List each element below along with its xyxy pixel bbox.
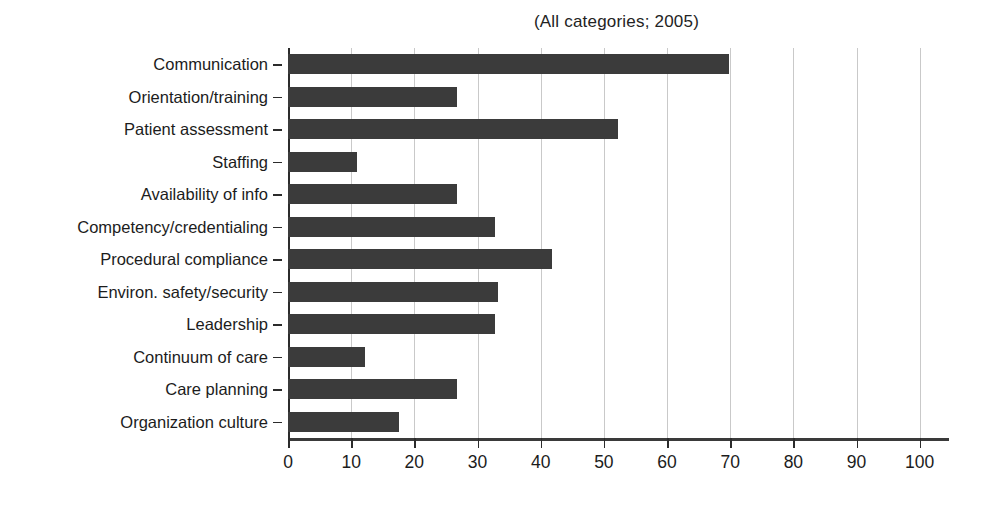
x-axis-tick-60 xyxy=(667,438,669,448)
y-axis-tick xyxy=(273,357,282,359)
bar xyxy=(288,217,495,237)
x-axis-tick-label: 20 xyxy=(405,452,424,473)
bar-row xyxy=(288,243,945,276)
x-axis-tick-labels: 0102030405060708090100 xyxy=(288,452,949,482)
y-axis-label: Care planning xyxy=(165,373,268,406)
y-axis-label: Leadership xyxy=(186,308,268,341)
x-axis-tick-label: 60 xyxy=(657,452,676,473)
y-axis-tick xyxy=(273,162,282,164)
bar xyxy=(288,412,399,432)
bar-row xyxy=(288,48,945,81)
x-axis-tick-label: 100 xyxy=(905,452,934,473)
bar-row xyxy=(288,211,945,244)
x-axis-tick-10 xyxy=(351,438,353,448)
bar xyxy=(288,314,495,334)
y-axis-label: Staffing xyxy=(212,146,268,179)
bar-row xyxy=(288,308,945,341)
x-axis-tick-label: 30 xyxy=(468,452,487,473)
x-axis-tick-label: 0 xyxy=(283,452,293,473)
bar xyxy=(288,119,618,139)
y-axis-label: Competency/credentialing xyxy=(77,211,268,244)
x-axis-tick-label: 10 xyxy=(341,452,360,473)
bar-row xyxy=(288,81,945,114)
y-axis-category-labels: CommunicationOrientation/trainingPatient… xyxy=(0,48,282,438)
y-axis-tick xyxy=(273,64,282,66)
bar xyxy=(288,249,552,269)
y-axis-tick xyxy=(273,324,282,326)
bar-row xyxy=(288,276,945,309)
y-axis-label: Organization culture xyxy=(120,406,268,439)
chart-figure: (All categories; 2005) CommunicationOrie… xyxy=(0,0,994,512)
bar-row xyxy=(288,146,945,179)
x-axis-tick-80 xyxy=(793,438,795,448)
x-axis-tick-label: 40 xyxy=(531,452,550,473)
y-axis-label: Patient assessment xyxy=(124,113,268,146)
y-axis-tick xyxy=(273,259,282,261)
x-axis-tick-20 xyxy=(414,438,416,448)
x-axis-ticks xyxy=(288,438,949,450)
bar-row xyxy=(288,178,945,211)
x-axis-tick-label: 50 xyxy=(594,452,613,473)
y-axis-tick xyxy=(273,97,282,99)
bar-row xyxy=(288,373,945,406)
x-axis-tick-100 xyxy=(920,438,922,448)
x-axis-tick-40 xyxy=(541,438,543,448)
x-axis-tick-label: 70 xyxy=(720,452,739,473)
y-axis-tick xyxy=(273,129,282,131)
y-axis-label: Communication xyxy=(153,48,268,81)
bar xyxy=(288,282,498,302)
bar-series xyxy=(288,48,945,438)
x-axis-tick-90 xyxy=(857,438,859,448)
chart-title: (All categories; 2005) xyxy=(288,12,945,32)
bar xyxy=(288,152,357,172)
x-axis-tick-30 xyxy=(478,438,480,448)
y-axis-label: Environ. safety/security xyxy=(97,276,268,309)
x-axis-tick-0 xyxy=(288,438,290,448)
bar xyxy=(288,347,365,367)
y-axis-tick xyxy=(273,227,282,229)
bar-row xyxy=(288,341,945,374)
x-axis-tick-50 xyxy=(604,438,606,448)
y-axis-label: Continuum of care xyxy=(133,341,268,374)
y-axis-tick xyxy=(273,292,282,294)
x-axis-tick-label: 80 xyxy=(784,452,803,473)
y-axis-label: Orientation/training xyxy=(129,81,268,114)
bar xyxy=(288,379,457,399)
y-axis-tick xyxy=(273,194,282,196)
y-axis-tick xyxy=(273,422,282,424)
x-axis-tick-label: 90 xyxy=(847,452,866,473)
y-axis-tick xyxy=(273,389,282,391)
bar-row xyxy=(288,113,945,146)
bar xyxy=(288,184,457,204)
x-axis-tick-70 xyxy=(730,438,732,448)
y-axis-label: Availability of info xyxy=(141,178,268,211)
plot-area xyxy=(288,48,945,438)
bar-row xyxy=(288,406,945,439)
bar xyxy=(288,87,457,107)
y-axis-label: Procedural compliance xyxy=(100,243,268,276)
bar xyxy=(288,54,729,74)
